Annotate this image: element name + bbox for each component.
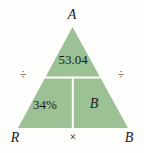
- cell-top-value: 53.04: [43, 53, 103, 66]
- vertex-label-r: R: [0, 131, 30, 145]
- division-icon-left: ÷: [16, 68, 30, 80]
- division-icon-right: ÷: [114, 68, 128, 80]
- triangle-diagram: A R B 53.04 34% B ÷ ÷ ×: [0, 0, 144, 153]
- vertex-label-b: B: [114, 131, 144, 145]
- cell-bottom-left-value: 34%: [20, 98, 70, 111]
- cell-bottom-right-value: B: [78, 97, 110, 111]
- multiplication-icon-bottom: ×: [61, 131, 85, 143]
- vertex-label-a: A: [0, 8, 144, 22]
